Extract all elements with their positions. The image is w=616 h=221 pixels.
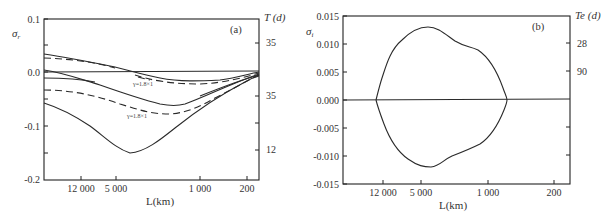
curve-upper-branch [376,27,507,100]
x-axis-title-a: L(km) [146,195,174,208]
zero-line-b [343,99,570,100]
panel-label-b: (b) [532,21,545,33]
x-axis-title-b: L(km) [439,199,467,212]
x-tick-label: 5 000 [105,183,128,194]
bottom-axis-ticks-a [81,176,247,180]
y-axis-title-b: σi [306,25,313,39]
y-axis-title-a: σr [12,27,20,41]
curve-solid-1 [44,54,259,81]
right-tick-label: 35 [266,37,276,48]
y-tick-label: -0.010 [313,151,339,162]
right-axis-ticks-a [255,43,259,150]
panel-a: 0.1 0.0 -0.1 -0.2 σr T (d) 35 35 12 12 0… [12,11,286,208]
y-tick-label: 0.0 [28,67,41,78]
right-tick-label: 12 [266,144,276,155]
y-tick-label: 0.000 [317,95,340,106]
x-tick-label: 200 [547,187,562,198]
y-tick-label: 0.010 [317,39,340,50]
curve-solid-2 [44,70,259,106]
panel-b: 0.015 0.010 0.005 0.000 -0.005 -0.010 -0… [306,9,601,212]
bottom-axis-ticks-b [383,180,554,184]
curves-a [44,54,259,153]
figure: 0.1 0.0 -0.1 -0.2 σr T (d) 35 35 12 12 0… [0,0,616,221]
y-tick-label: -0.1 [24,121,40,132]
y-tick-label: 0.015 [317,11,340,22]
y-tick-label: -0.005 [313,123,339,134]
y-tick-label: -0.015 [313,179,339,190]
right-axis-title-a: T (d) [264,11,286,24]
x-tick-label: 12 000 [67,183,95,194]
y-tick-label: 0.005 [317,67,340,78]
right-axis-title-b: Te (d) [575,9,601,22]
left-axis-ticks-a [44,19,48,153]
curve-lower-branch [376,100,507,167]
x-tick-label: 200 [240,183,255,194]
right-tick-label: 90 [577,66,587,77]
panel-label-a: (a) [230,24,242,36]
curve-zero-line [44,71,259,72]
x-tick-label: 12 000 [369,187,397,198]
x-tick-label: 1 000 [477,187,500,198]
y-tick-label: -0.2 [24,174,40,185]
curve-annotation: γ=1.8×1 [132,81,153,87]
x-tick-label: 1 000 [189,183,212,194]
y-tick-label: 0.1 [28,14,41,25]
right-tick-label: 28 [577,38,587,49]
plot-frame-a [44,19,259,180]
x-tick-label: 5 000 [410,187,433,198]
curve-solid-4 [44,76,259,153]
curves-b [343,27,570,167]
curve-annotation: γ=1.8×1 [126,113,147,119]
right-tick-label: 35 [266,90,276,101]
